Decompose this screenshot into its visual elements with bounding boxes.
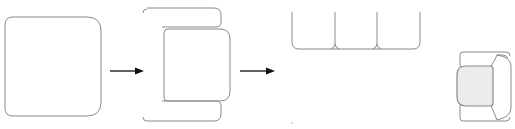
arrow-right-icon — [110, 68, 144, 75]
rounded-square-shape — [5, 17, 101, 116]
arrow-right-icon — [240, 68, 275, 75]
stray-dot — [291, 122, 293, 124]
three-seat-sofa-shape — [292, 12, 420, 49]
shaded-armchair-shape — [457, 52, 511, 121]
furniture-transformation-diagram — [0, 0, 515, 129]
armchair-outline-shape — [143, 8, 230, 121]
